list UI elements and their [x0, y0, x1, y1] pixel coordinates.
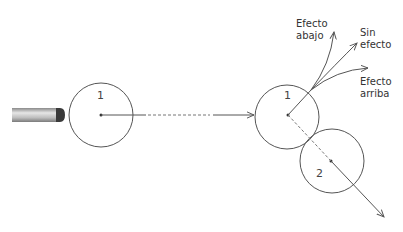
- cue-stick-icon: [12, 108, 65, 122]
- ball-2-direction-arrow: [331, 161, 384, 217]
- no-spin-label-line1: Sin: [360, 27, 375, 38]
- no-spin-label-line2: efecto: [360, 39, 391, 50]
- spin-up-label-line1: Efecto: [360, 76, 392, 87]
- spin-up-label-line2: arriba: [360, 88, 389, 99]
- ball-1-deflection-line: [288, 90, 311, 115]
- line-of-centers: [288, 115, 331, 161]
- ball-1-impact: 1: [255, 85, 319, 149]
- ball-1-impact-label: 1: [284, 89, 291, 102]
- no-spin-path-arrow: [311, 43, 357, 90]
- spin-down-label-line1: Efecto: [296, 18, 328, 29]
- billiards-spin-diagram: 1 1 2 Efecto abajo Sin efecto Efecto arr…: [0, 0, 403, 232]
- spin-down-label-line2: abajo: [296, 30, 324, 41]
- ball-1-initial-label: 1: [97, 89, 104, 102]
- ball-2-label: 2: [316, 167, 323, 180]
